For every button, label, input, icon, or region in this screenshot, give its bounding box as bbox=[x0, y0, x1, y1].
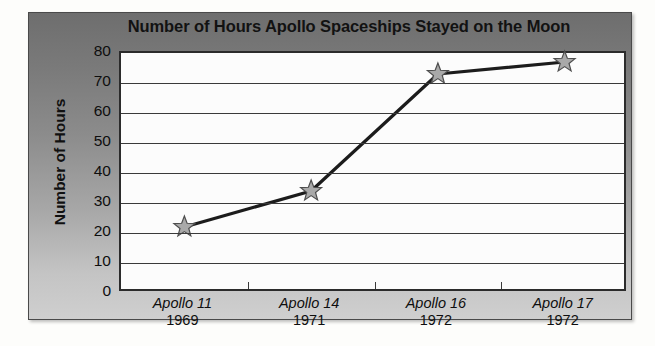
x-tick-label-year: 1972 bbox=[532, 312, 592, 329]
gridline bbox=[121, 143, 624, 144]
x-tick-label-name: Apollo 17 bbox=[532, 295, 592, 312]
gridline bbox=[121, 263, 624, 264]
y-tick-label: 40 bbox=[77, 162, 111, 180]
x-tick-label: Apollo 141971 bbox=[279, 295, 339, 329]
y-tick-label: 70 bbox=[77, 72, 111, 90]
data-point-marker bbox=[554, 51, 575, 71]
x-tick-label: Apollo 161972 bbox=[406, 295, 466, 329]
gridline bbox=[121, 203, 624, 204]
gridline bbox=[121, 233, 624, 234]
gridline bbox=[121, 83, 624, 84]
x-tick-label: Apollo 111969 bbox=[153, 295, 212, 329]
y-tick-label: 10 bbox=[77, 252, 111, 270]
y-tick-label: 80 bbox=[77, 42, 111, 60]
y-tick-label: 20 bbox=[77, 222, 111, 240]
x-axis-tick bbox=[375, 282, 376, 289]
y-tick-label: 60 bbox=[77, 102, 111, 120]
plot-area bbox=[119, 51, 626, 291]
chart-figure: Number of Hours Apollo Spaceships Stayed… bbox=[0, 0, 655, 346]
x-tick-label: Apollo 171972 bbox=[532, 295, 592, 329]
x-tick-label-name: Apollo 11 bbox=[153, 295, 212, 312]
x-tick-label-name: Apollo 16 bbox=[406, 295, 466, 312]
gridline bbox=[121, 173, 624, 174]
y-axis-tick-labels: 01020304050607080 bbox=[77, 51, 111, 291]
y-tick-label: 0 bbox=[77, 282, 111, 300]
x-tick-label-year: 1972 bbox=[406, 312, 466, 329]
x-axis-tick bbox=[248, 282, 249, 289]
x-tick-label-name: Apollo 14 bbox=[279, 295, 339, 312]
x-tick-label-year: 1971 bbox=[279, 312, 339, 329]
y-tick-label: 30 bbox=[77, 192, 111, 210]
chart-panel: Number of Hours Apollo Spaceships Stayed… bbox=[28, 12, 632, 320]
x-axis-tick-labels: Apollo 111969Apollo 141971Apollo 161972A… bbox=[119, 295, 626, 335]
y-axis-title: Number of Hours bbox=[51, 82, 69, 242]
x-tick-label-year: 1969 bbox=[153, 312, 212, 329]
y-tick-label: 50 bbox=[77, 132, 111, 150]
gridline bbox=[121, 113, 624, 114]
x-axis-tick bbox=[501, 282, 502, 289]
chart-title: Number of Hours Apollo Spaceships Stayed… bbox=[69, 17, 629, 36]
